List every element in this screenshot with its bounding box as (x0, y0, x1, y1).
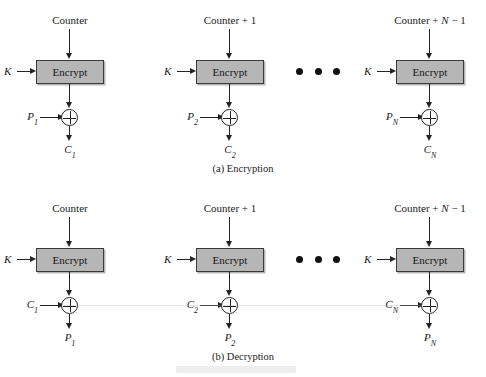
output-arrowhead-icon (226, 135, 232, 141)
output-arrowhead-icon (226, 323, 232, 329)
panel-b-caption: (b) Decryption (0, 351, 486, 362)
box-to-xor-arrowhead-icon (226, 290, 232, 296)
key-label: K (164, 253, 171, 265)
xor-gate-icon (421, 109, 438, 126)
ciphertext-input-label: CN (360, 298, 398, 315)
box-to-xor-line (429, 272, 430, 291)
decryption-stage-2: Counter + 1 K Encrypt C2 P2 (160, 188, 300, 376)
decryption-panel: Counter K Encrypt C1 P1 Counter + 1 (0, 188, 486, 376)
decryption-stage-1: Counter K Encrypt C1 P1 (0, 188, 140, 376)
counter-arrowhead-icon (426, 241, 432, 247)
key-to-box-line (377, 71, 391, 72)
counter-arrowhead-icon (426, 53, 432, 59)
scan-artifact-ghost-text (176, 366, 296, 373)
scan-artifact-line (62, 305, 422, 306)
output-arrowhead-icon (66, 135, 72, 141)
box-to-xor-arrowhead-icon (226, 102, 232, 108)
counter-arrowhead-icon (226, 241, 232, 247)
plaintext-input-label: P1 (0, 110, 38, 127)
output-arrowhead-icon (426, 135, 432, 141)
decryption-stage-n: Counter + N − 1 K Encrypt CN PN (360, 188, 486, 376)
counter-to-box-line (69, 29, 70, 54)
counter-to-box-line (429, 217, 430, 242)
encryption-stage-2: Counter + 1 K Encrypt P2 C2 (160, 0, 300, 188)
box-to-xor-line (229, 84, 230, 103)
key-label: K (364, 65, 371, 77)
output-arrowhead-icon (66, 323, 72, 329)
ellipsis-dots-icon (296, 64, 340, 78)
counter-label: Counter + N − 1 (360, 14, 486, 26)
encrypt-box-label: Encrypt (197, 61, 263, 83)
plaintext-input-label: P2 (160, 110, 198, 127)
plaintext-output-label: PN (360, 331, 486, 348)
plaintext-input-label: PN (360, 110, 398, 127)
box-to-xor-arrowhead-icon (66, 290, 72, 296)
encrypt-box-label: Encrypt (397, 61, 463, 83)
box-to-xor-arrowhead-icon (426, 290, 432, 296)
panel-a-caption: (a) Encryption (0, 163, 486, 174)
counter-label: Counter + 1 (160, 202, 300, 214)
xor-gate-icon (221, 109, 238, 126)
xor-gate-icon (421, 297, 438, 314)
ctr-mode-figure: Counter K Encrypt P1 C1 Counter + 1 (0, 0, 486, 377)
encrypt-box: Encrypt (196, 60, 264, 84)
encryption-stage-1: Counter K Encrypt P1 C1 (0, 0, 140, 188)
ciphertext-output-label: C1 (0, 143, 140, 160)
key-to-box-line (177, 259, 191, 260)
box-to-xor-arrowhead-icon (66, 102, 72, 108)
box-to-xor-line (229, 272, 230, 291)
key-label: K (4, 65, 11, 77)
encrypt-box: Encrypt (196, 248, 264, 272)
output-arrowhead-icon (426, 323, 432, 329)
box-to-xor-arrowhead-icon (426, 102, 432, 108)
ciphertext-input-label: C1 (0, 298, 38, 315)
encryption-stage-n: Counter + N − 1 K Encrypt PN CN (360, 0, 486, 188)
encrypt-box: Encrypt (396, 248, 464, 272)
counter-to-box-line (229, 29, 230, 54)
key-to-box-line (377, 259, 391, 260)
encrypt-box-label: Encrypt (397, 249, 463, 271)
encrypt-box-label: Encrypt (197, 249, 263, 271)
xor-gate-icon (61, 109, 78, 126)
key-to-box-line (177, 71, 191, 72)
key-to-box-line (17, 259, 31, 260)
ciphertext-output-label: C2 (160, 143, 300, 160)
counter-to-box-line (229, 217, 230, 242)
key-label: K (4, 253, 11, 265)
encryption-panel: Counter K Encrypt P1 C1 Counter + 1 (0, 0, 486, 188)
counter-arrowhead-icon (226, 53, 232, 59)
counter-label: Counter (0, 14, 140, 26)
plaintext-output-label: P2 (160, 331, 300, 348)
input-to-xor-line (40, 117, 59, 118)
encrypt-box-label: Encrypt (37, 61, 103, 83)
encrypt-box: Encrypt (36, 60, 104, 84)
box-to-xor-line (69, 272, 70, 291)
ellipsis-dots-icon (296, 252, 340, 266)
counter-arrowhead-icon (66, 241, 72, 247)
key-to-box-line (17, 71, 31, 72)
counter-to-box-line (69, 217, 70, 242)
ciphertext-input-label: C2 (160, 298, 198, 315)
key-label: K (364, 253, 371, 265)
input-to-xor-line (40, 305, 59, 306)
key-label: K (164, 65, 171, 77)
encrypt-box-label: Encrypt (37, 249, 103, 271)
ciphertext-output-label: CN (360, 143, 486, 160)
counter-label: Counter + N − 1 (360, 202, 486, 214)
counter-label: Counter (0, 202, 140, 214)
counter-to-box-line (429, 29, 430, 54)
plaintext-output-label: P1 (0, 331, 140, 348)
box-to-xor-line (69, 84, 70, 103)
encrypt-box: Encrypt (36, 248, 104, 272)
box-to-xor-line (429, 84, 430, 103)
input-to-xor-line (200, 117, 219, 118)
input-to-xor-line (400, 117, 419, 118)
counter-label: Counter + 1 (160, 14, 300, 26)
encrypt-box: Encrypt (396, 60, 464, 84)
counter-arrowhead-icon (66, 53, 72, 59)
